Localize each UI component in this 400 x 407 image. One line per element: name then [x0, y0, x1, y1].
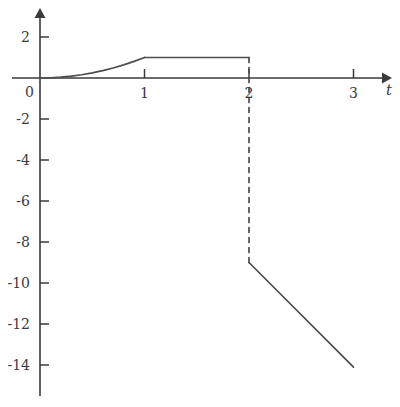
chart-figure: 20-2-4-6-8-10-12-14 123 t [0, 0, 400, 407]
series-rise [40, 58, 145, 79]
y-tick-label: -6 [16, 194, 30, 208]
series-descent [249, 263, 354, 368]
y-tick-label: -4 [16, 153, 30, 167]
y-tick-label: -10 [7, 276, 30, 290]
axes-group [12, 8, 392, 396]
y-tick-label: -2 [16, 112, 30, 126]
y-axis-arrow-icon [35, 8, 46, 18]
x-tick-label: 1 [140, 86, 149, 100]
y-tick-label: 0 [25, 85, 34, 99]
x-tick-label: 2 [245, 86, 254, 100]
y-tick-label: -8 [16, 235, 30, 249]
y-axis-ticks [40, 37, 49, 365]
data-series-group [40, 58, 354, 368]
plot-canvas [0, 0, 400, 407]
x-tick-label: 3 [349, 86, 358, 100]
y-tick-label: 2 [21, 30, 30, 44]
y-tick-label: -12 [7, 317, 30, 331]
x-axis-label: t [386, 81, 392, 99]
y-tick-label: -14 [7, 358, 30, 372]
